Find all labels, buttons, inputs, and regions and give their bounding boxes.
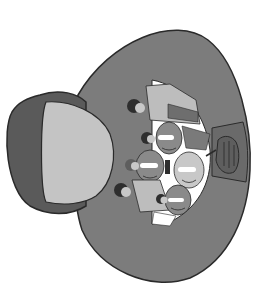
megaphone-svg [0, 0, 256, 295]
megaphone-illustration [0, 0, 256, 295]
